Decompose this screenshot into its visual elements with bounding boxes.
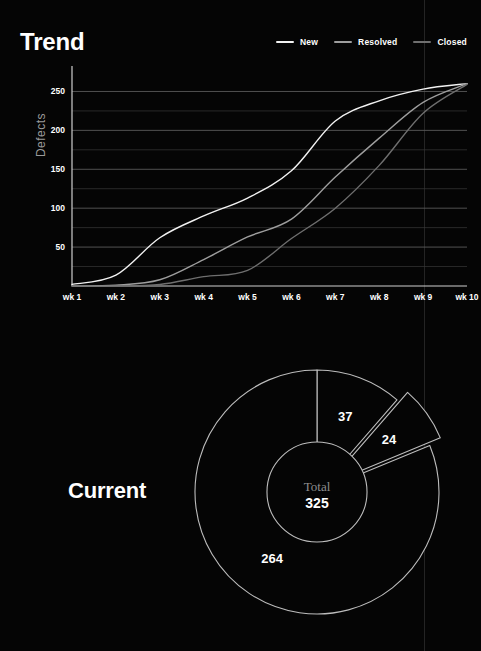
x-tick-label: wk 8 [369,292,389,302]
y-tick-label: 50 [56,242,66,252]
x-tick-label: wk 4 [193,292,213,302]
axis-lines [72,66,467,286]
current-panel: Current 3724264 Total 325 [0,330,481,651]
x-tick-label: wk 6 [281,292,301,302]
x-tick-label: wk 1 [62,292,82,302]
trend-line-chart: 50100150200250 wk 1wk 2wk 3wk 4wk 5wk 6w… [0,0,481,330]
x-tick-label: wk 7 [325,292,345,302]
grid-lines [72,91,467,266]
current-donut-chart: 3724264 Total 325 [0,330,481,651]
y-tick-label: 250 [51,86,65,96]
series-line-closed [72,84,467,286]
series-lines [72,84,467,286]
x-tick-label: wk 5 [237,292,257,302]
y-tick-labels: 50100150200250 [51,86,65,252]
y-tick-label: 200 [51,125,65,135]
dashboard-page: Trend New Resolved Closed Defects 501001 [0,0,481,651]
x-tick-label: wk 10 [454,292,478,302]
x-tick-labels: wk 1wk 2wk 3wk 4wk 5wk 6wk 7wk 8wk 9wk 1… [62,292,479,302]
donut-total-caption: Total [304,479,331,494]
trend-panel: Trend New Resolved Closed Defects 501001 [0,0,481,330]
donut-slice-label: 24 [382,432,397,447]
y-tick-label: 150 [51,164,65,174]
donut-slice-label: 37 [338,409,352,424]
y-tick-label: 100 [51,203,65,213]
x-tick-label: wk 9 [413,292,433,302]
x-tick-label: wk 2 [106,292,126,302]
x-tick-label: wk 3 [150,292,170,302]
donut-slice-label: 264 [261,551,283,566]
donut-total-value: 325 [305,495,329,511]
